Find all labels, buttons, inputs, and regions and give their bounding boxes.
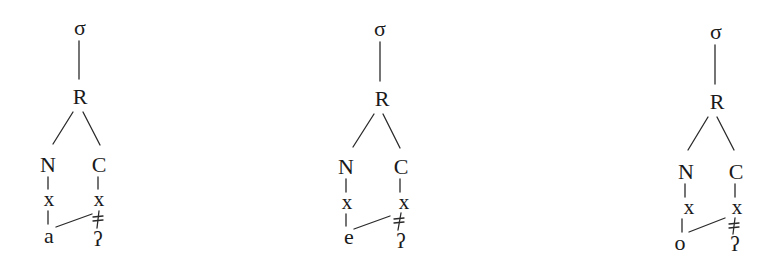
- vowel-segment: o: [675, 230, 686, 255]
- rhyme-coda-link: [83, 112, 100, 145]
- rhyme-nucleus-link: [353, 114, 374, 147]
- rhyme-coda-link: [383, 114, 400, 148]
- delink-mark-top: [729, 223, 739, 224]
- coda-node: C: [92, 152, 107, 177]
- syllable-node: σ: [74, 15, 86, 40]
- nucleus-timing-slot: x: [342, 190, 353, 214]
- rhyme-node: R: [375, 86, 390, 111]
- rhyme-nucleus-link: [688, 117, 708, 150]
- delink-mark-top: [93, 216, 103, 217]
- nucleus-node: N: [40, 152, 56, 177]
- coda-timing-slot: x: [732, 195, 743, 219]
- rhyme-nucleus-link: [53, 112, 73, 144]
- syllable-node: σ: [374, 16, 386, 41]
- coda-timing-slot: x: [399, 190, 410, 214]
- spreading-link: [354, 216, 390, 229]
- rhyme-coda-link: [717, 117, 734, 150]
- spreading-link: [689, 218, 725, 232]
- syllable-tree-3: σ R N C x x o ʔ: [630, 0, 784, 268]
- glottal-stop-segment: ʔ: [93, 227, 102, 251]
- glottal-stop-segment: ʔ: [396, 229, 405, 253]
- syllable-tree-2: σ R N C x x e ʔ: [300, 0, 560, 268]
- delinked-association-line: [398, 213, 401, 230]
- coda-timing-slot: x: [94, 187, 105, 211]
- coda-node: C: [394, 154, 409, 179]
- glottal-stop-segment: ʔ: [730, 232, 739, 256]
- syllable-tree-1: σ R N C x x a ʔ: [0, 0, 260, 268]
- diagram-canvas: σ R N C x x a ʔ σ R N C x x e: [0, 0, 784, 268]
- rhyme-node: R: [73, 84, 88, 109]
- delink-mark-bottom: [394, 222, 404, 223]
- vowel-segment: e: [344, 224, 354, 249]
- spreading-link: [56, 214, 92, 227]
- nucleus-node: N: [678, 159, 694, 184]
- syllable-node: σ: [710, 19, 722, 44]
- nucleus-node: N: [338, 154, 354, 179]
- delink-mark-bottom: [93, 220, 103, 221]
- delink-mark-bottom: [729, 227, 739, 228]
- coda-node: C: [729, 159, 744, 184]
- vowel-segment: a: [44, 223, 54, 248]
- nucleus-timing-slot: x: [44, 187, 55, 211]
- nucleus-timing-slot: x: [684, 195, 695, 219]
- rhyme-node: R: [710, 89, 725, 114]
- delink-mark-top: [394, 218, 404, 219]
- delinked-association-line: [97, 211, 99, 228]
